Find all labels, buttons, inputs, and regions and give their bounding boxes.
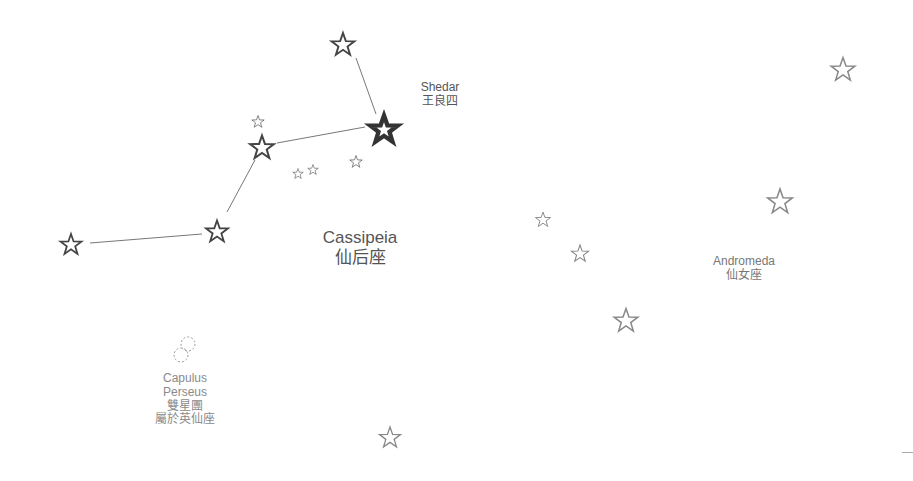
cluster-line-4: 屬於英仙座 xyxy=(130,413,240,427)
small-star-icon xyxy=(293,169,303,179)
andromeda-name-zh: 仙女座 xyxy=(696,269,792,283)
cassiopeia-name-zh: 仙后座 xyxy=(300,248,420,268)
small-star-icon xyxy=(350,156,362,168)
cluster-line-2: Perseus xyxy=(130,386,240,400)
andromeda-name-en: Andromeda xyxy=(696,255,792,269)
double-cluster-label: Capulus Perseus 雙星團 屬於英仙座 xyxy=(130,372,240,427)
shedar-name-en: Shedar xyxy=(408,81,472,95)
star-icon xyxy=(831,58,855,81)
star-icon xyxy=(535,212,550,226)
shedar-star-icon xyxy=(370,116,398,142)
star-icon xyxy=(768,189,793,213)
cluster-line-1: Capulus xyxy=(130,372,240,386)
cassiopeia-label: Cassipeia 仙后座 xyxy=(300,228,420,267)
small-star-icon xyxy=(308,165,318,175)
star-icon xyxy=(250,136,274,159)
small-star-icon xyxy=(252,116,264,128)
shedar-label: Shedar 王良四 xyxy=(408,81,472,109)
star-icon xyxy=(206,221,228,242)
edge-tick-mark xyxy=(902,452,913,453)
shedar-name-zh: 王良四 xyxy=(408,95,472,109)
double-cluster-icon xyxy=(174,337,195,362)
star-icon xyxy=(332,33,355,55)
star-icon xyxy=(380,427,401,447)
star-icon xyxy=(614,309,638,332)
cassiopeia-lines xyxy=(90,58,376,243)
star-icon xyxy=(571,245,588,261)
cassiopeia-name-en: Cassipeia xyxy=(300,228,420,248)
star-icon xyxy=(61,234,82,254)
andromeda-label: Andromeda 仙女座 xyxy=(696,255,792,283)
